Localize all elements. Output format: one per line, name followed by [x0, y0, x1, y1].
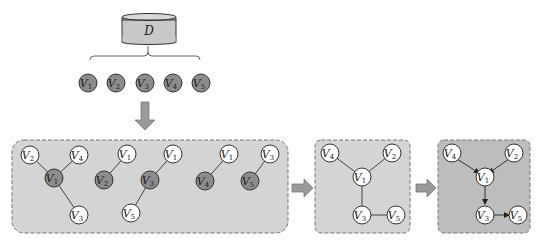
variable-node-v4: V4	[164, 74, 182, 92]
right-arrow-icon	[292, 179, 313, 197]
variable-node-v3: V3	[136, 74, 154, 92]
variable-node-v2: V2	[107, 74, 125, 92]
database-cylinder-icon: D	[122, 14, 176, 45]
brace	[90, 46, 200, 60]
database-label: D	[143, 24, 154, 38]
right-arrow-icon	[416, 179, 436, 197]
variable-node-v1: V1	[79, 74, 97, 92]
variable-node-v5: V5	[192, 74, 210, 92]
down-arrow-icon	[135, 102, 155, 130]
variable-nodes-row: V1 V2 V3 V4 V5	[79, 74, 210, 92]
causal-discovery-diagram: D V1 V2 V3 V4 V5 V2	[0, 0, 541, 240]
